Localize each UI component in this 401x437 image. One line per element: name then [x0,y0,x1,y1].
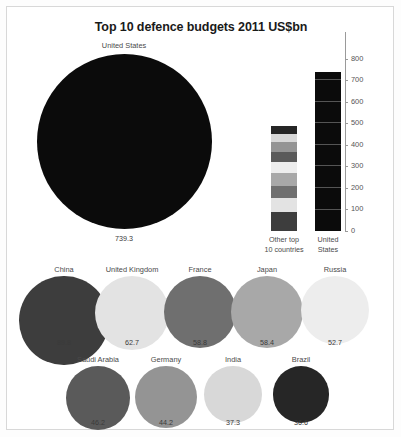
bubble-value: 36.6 [236,418,366,427]
bubble-united-states: United States 739.3 [34,41,214,246]
y-tick-mark [345,188,348,189]
y-tick-label: 700 [351,75,363,84]
bubble-value-united-states: 739.3 [59,234,189,243]
bar-chart: 0100200300400500600700800 Other top 10 c… [257,27,395,242]
bar-gridline [315,122,341,123]
bubble-circle[interactable] [273,366,330,423]
bar-segment-saudi-arabia[interactable] [271,152,297,162]
bar-gridline [315,187,341,188]
y-tick-mark [345,209,348,210]
bubble-label-united-states: United States [59,41,189,50]
bar-label-line1: United [304,235,352,245]
bar-gridline [315,165,341,166]
bubble-row-3: Saudi Arabia46.2Germany44.2India37.3Braz… [7,355,395,437]
bar-gridline [315,101,341,102]
bar-gridline [315,209,341,210]
bubble-brazil: Brazil36.6 [236,355,366,437]
bar-segment-india[interactable] [271,134,297,142]
y-tick-mark [345,59,348,60]
y-tick-label: 200 [351,183,363,192]
bar-segment-japan[interactable] [271,173,297,186]
bar-other-top-10-countries[interactable] [271,126,297,231]
y-tick-label: 600 [351,97,363,106]
bubble-circle-united-states [37,54,212,229]
y-tick-mark [345,145,348,146]
y-tick-mark [345,80,348,81]
bar-united-states[interactable] [315,72,341,231]
bubble-value: 52.7 [270,338,400,347]
y-tick-mark [345,166,348,167]
y-tick-mark [345,231,348,232]
y-tick-label: 500 [351,118,363,127]
y-tick-label: 100 [351,204,363,213]
y-tick-label: 300 [351,161,363,170]
bar-label-united-states: United States [304,235,352,254]
chart-panel: Top 10 defence budgets 2011 US$bn United… [6,6,394,430]
bubble-russia: Russia52.7 [270,265,400,351]
bar-label-line1: Other top [257,235,311,245]
bar-segment-russia[interactable] [271,162,297,173]
bar-segment-china[interactable] [271,212,297,231]
bubble-row-2: China89.8United Kingdom62.7France58.8Jap… [7,265,395,351]
y-tick-mark [345,102,348,103]
screenshot-root: Top 10 defence budgets 2011 US$bn United… [0,0,401,437]
y-tick-mark [345,123,348,124]
y-tick-label: 800 [351,54,363,63]
y-tick-label: 0 [351,226,355,235]
bar-label-other-top-10-countries: Other top 10 countries [257,235,311,254]
bar-gridline [315,144,341,145]
bar-label-line2: 10 countries [257,245,311,255]
bar-segment-france[interactable] [271,186,297,199]
bar-segment-united-kingdom[interactable] [271,198,297,211]
bar-segment-germany[interactable] [271,142,297,152]
bar-gridline [315,79,341,80]
bubble-label: Russia [270,265,400,274]
bar-label-line2: States [304,245,352,255]
y-tick-label: 400 [351,140,363,149]
bubble-circle[interactable] [301,276,369,344]
bubble-label: Brazil [236,355,366,364]
y-axis-line [345,32,346,231]
bar-segment-brazil[interactable] [271,126,297,134]
